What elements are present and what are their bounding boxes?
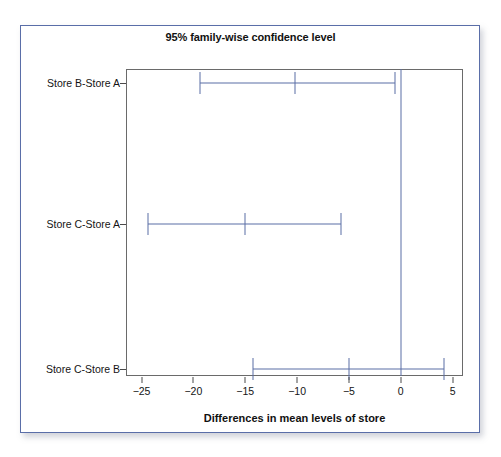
plot-title: 95% family-wise confidence level	[0, 31, 501, 43]
x-axis-tick	[348, 377, 349, 383]
y-axis-label: Store C-Store B	[46, 363, 120, 375]
x-axis-title: Differences in mean levels of store	[126, 412, 463, 424]
interval-lower-cap	[147, 213, 148, 235]
interval-lower-cap	[252, 358, 253, 380]
zero-reference-line	[400, 69, 401, 376]
x-axis-tick	[245, 377, 246, 383]
interval-upper-cap	[394, 72, 395, 94]
interval-lower-cap	[199, 72, 200, 94]
x-axis-tick-label: 5	[450, 385, 456, 397]
interval-center-marker	[245, 213, 246, 235]
x-axis-tick	[297, 377, 298, 383]
figure-page: 95% family-wise confidence level Store B…	[0, 0, 501, 457]
y-axis-label: Store C-Store A	[46, 218, 120, 230]
x-axis-tick-label: −25	[133, 385, 151, 397]
interval-center-marker	[295, 72, 296, 94]
x-axis-tick-label: −5	[343, 385, 355, 397]
x-axis-tick	[400, 377, 401, 383]
interval-line	[200, 83, 395, 84]
y-axis-label: Store B-Store A	[47, 77, 120, 89]
x-axis-tick-label: 0	[398, 385, 404, 397]
x-axis-tick	[141, 377, 142, 383]
confidence-interval-series	[126, 69, 463, 376]
interval-upper-cap	[444, 358, 445, 380]
x-axis-tick	[193, 377, 194, 383]
x-axis-tick	[452, 377, 453, 383]
interval-upper-cap	[340, 213, 341, 235]
x-axis-tick-label: −10	[288, 385, 306, 397]
x-axis-tick-label: −15	[236, 385, 254, 397]
x-axis-tick-label: −20	[184, 385, 202, 397]
